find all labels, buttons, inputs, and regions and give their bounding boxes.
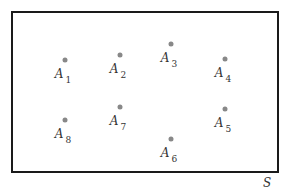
label-subscript: 8 xyxy=(65,135,71,145)
point-label-a2: A2 xyxy=(110,63,126,79)
label-subscript: 1 xyxy=(65,75,71,85)
label-letter: A xyxy=(161,146,170,160)
point-a4 xyxy=(223,57,228,62)
label-letter: A xyxy=(215,66,224,80)
point-a2 xyxy=(118,53,123,58)
point-a1 xyxy=(63,58,68,63)
label-subscript: 4 xyxy=(225,74,231,84)
label-letter: A xyxy=(110,114,119,128)
label-letter: A xyxy=(55,67,64,81)
point-a7 xyxy=(118,105,123,110)
point-label-a8: A8 xyxy=(55,128,71,144)
label-subscript: 3 xyxy=(171,59,177,69)
point-label-a4: A4 xyxy=(215,67,231,83)
point-label-a1: A1 xyxy=(55,68,71,84)
point-label-a6: A6 xyxy=(161,147,177,163)
label-letter: A xyxy=(215,116,224,130)
point-a8 xyxy=(63,118,68,123)
label-subscript: 7 xyxy=(120,122,126,132)
point-label-a7: A7 xyxy=(110,115,126,131)
label-letter: A xyxy=(55,127,64,141)
point-a5 xyxy=(223,107,228,112)
label-letter: A xyxy=(110,62,119,76)
label-subscript: 5 xyxy=(225,124,231,134)
label-subscript: 6 xyxy=(171,154,177,164)
point-label-a5: A5 xyxy=(215,117,231,133)
sample-space-label: S xyxy=(263,176,271,190)
point-a3 xyxy=(169,42,174,47)
point-a6 xyxy=(169,137,174,142)
label-subscript: 2 xyxy=(120,70,126,80)
label-letter: A xyxy=(161,51,170,65)
sample-space-box xyxy=(11,11,279,173)
point-label-a3: A3 xyxy=(161,52,177,68)
